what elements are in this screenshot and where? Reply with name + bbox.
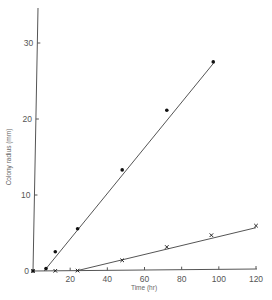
y-tick-label: 10 — [21, 190, 31, 200]
data-point-cross — [210, 233, 214, 237]
y-tick-label: 20 — [22, 114, 32, 124]
data-point-dot — [165, 108, 169, 112]
data-point-dot — [211, 60, 215, 64]
x-tick-label: 60 — [140, 274, 150, 284]
x-tick-label: 120 — [249, 274, 263, 284]
x-tick-label: 40 — [103, 274, 113, 284]
data-point-cross — [254, 224, 258, 228]
data-point-cross — [165, 245, 169, 249]
series-layer — [31, 60, 258, 273]
data-point-dot — [120, 168, 124, 172]
x-tick-label: 100 — [212, 274, 226, 284]
y-tick-label: 30 — [24, 38, 34, 48]
x-axis-title: Time (hr) — [131, 284, 157, 292]
y-tick-label: 0 — [24, 266, 29, 276]
x-tick-label: 20 — [65, 274, 75, 284]
x-tick-label: 80 — [177, 274, 187, 284]
series-2 — [31, 224, 258, 273]
fit-line — [44, 64, 213, 271]
data-point-dot — [44, 267, 48, 271]
y-axis-title: Colony radius (mm) — [5, 129, 13, 186]
data-point-dot — [54, 250, 58, 254]
data-point-dot — [76, 227, 80, 231]
chart: 010203020406080100120 Time (hr) Colony r… — [0, 0, 272, 300]
y-axis-line — [33, 8, 38, 271]
series-1 — [31, 60, 215, 273]
axes: 010203020406080100120 — [21, 8, 263, 284]
fit-line — [76, 228, 256, 271]
